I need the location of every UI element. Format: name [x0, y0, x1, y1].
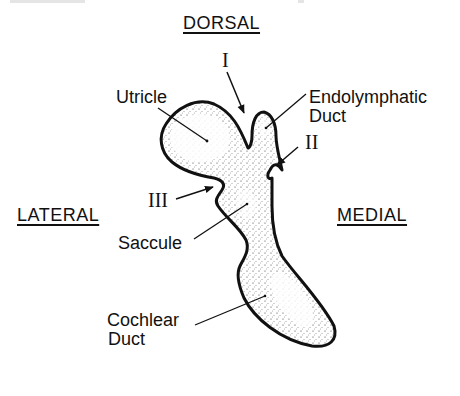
- label-utricle: Utricle: [116, 88, 167, 106]
- marker-II: II: [305, 132, 318, 152]
- label-cochlear-duct-2: Duct: [108, 330, 145, 348]
- label-endolymphatic-duct-2: Duct: [309, 107, 346, 125]
- orientation-medial: MEDIAL: [337, 206, 407, 224]
- label-saccule: Saccule: [118, 234, 182, 252]
- inner-ear-diagram: [0, 0, 460, 396]
- endolymphatic-duct-leader: [266, 94, 306, 128]
- marker-I: I: [222, 50, 229, 70]
- label-endolymphatic-duct-1: Endolymphatic: [309, 88, 427, 106]
- label-cochlear-duct-1: Cochlear: [107, 311, 179, 329]
- orientation-dorsal: DORSAL: [183, 14, 260, 32]
- marker-III: III: [148, 190, 168, 210]
- arrow-I: [227, 72, 244, 113]
- arrow-III: [176, 187, 213, 199]
- orientation-lateral: LATERAL: [17, 206, 99, 224]
